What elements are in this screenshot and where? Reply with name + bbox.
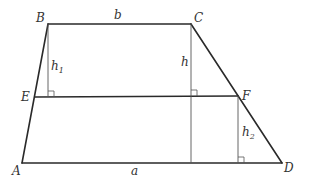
label-e: E — [20, 90, 30, 104]
label-h: h — [181, 55, 189, 69]
label-d: D — [283, 161, 294, 175]
label-b: B — [35, 11, 45, 25]
segment-ef — [35, 96, 238, 97]
right-angle-marker-h1 — [48, 91, 54, 97]
label-h1: h1 — [51, 59, 64, 75]
right-angle-marker-h2 — [238, 157, 244, 163]
label-c: C — [194, 11, 203, 25]
label-f: F — [241, 89, 251, 103]
label-h2: h2 — [242, 125, 255, 141]
label-side-b: b — [114, 8, 122, 22]
label-side-a: a — [131, 164, 138, 178]
right-angle-marker-h — [191, 90, 197, 96]
label-a: A — [11, 164, 21, 178]
trapezoid-diagram: B C E F A D b a h1 h h2 — [0, 0, 309, 183]
side-cd — [191, 24, 282, 163]
